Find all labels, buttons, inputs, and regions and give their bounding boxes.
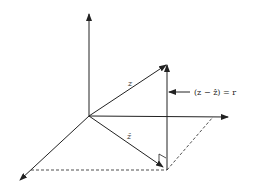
horizontal-axis [89,116,228,117]
z-hat-vector [89,116,163,167]
z-label: z [127,79,133,88]
z-hat-label: ẑ [126,132,132,141]
residual-label: (z − ẑ) = r [194,88,236,97]
right-angle-marker [159,154,166,164]
projection-diagram: z ẑ (z − ẑ) = r [0,0,255,194]
z-vector [89,65,166,116]
plane-edge-right [167,117,213,170]
